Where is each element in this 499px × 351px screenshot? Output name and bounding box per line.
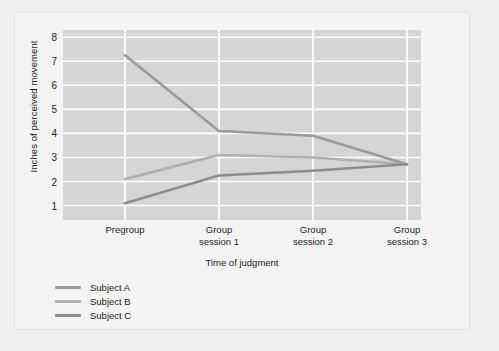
x-axis-tick-labels: PregroupGroup session 1Group session 2Gr…: [63, 224, 421, 258]
legend-item-subject-b[interactable]: Subject B: [55, 294, 131, 308]
y-tick-2: 2: [39, 176, 57, 187]
legend-swatch-icon: [55, 300, 81, 303]
x-axis-label: Time of judgment: [63, 257, 421, 268]
chart-legend: Subject ASubject BSubject C: [55, 280, 131, 322]
legend-swatch-icon: [55, 286, 81, 289]
y-tick-6: 6: [39, 80, 57, 91]
line-chart-figure: Inches of perceived movement 12345678 Pr…: [15, 13, 471, 331]
y-tick-1: 1: [39, 200, 57, 211]
legend-label: Subject A: [90, 282, 130, 293]
y-axis-tick-labels: 12345678: [35, 13, 57, 331]
legend-item-subject-a[interactable]: Subject A: [55, 280, 131, 294]
legend-label: Subject C: [90, 310, 131, 321]
y-tick-4: 4: [39, 128, 57, 139]
y-tick-8: 8: [39, 32, 57, 43]
plot-svg: [63, 30, 421, 220]
legend-label: Subject B: [90, 296, 131, 307]
plot-area: [63, 30, 421, 220]
figure-card: Inches of perceived movement 12345678 Pr…: [14, 12, 470, 330]
y-tick-3: 3: [39, 152, 57, 163]
legend-item-subject-c[interactable]: Subject C: [55, 308, 131, 322]
y-tick-5: 5: [39, 104, 57, 115]
series-line-subject-c: [125, 164, 407, 203]
legend-swatch-icon: [55, 314, 81, 317]
y-tick-7: 7: [39, 56, 57, 67]
x-tick-3: Group session 3: [352, 224, 462, 247]
